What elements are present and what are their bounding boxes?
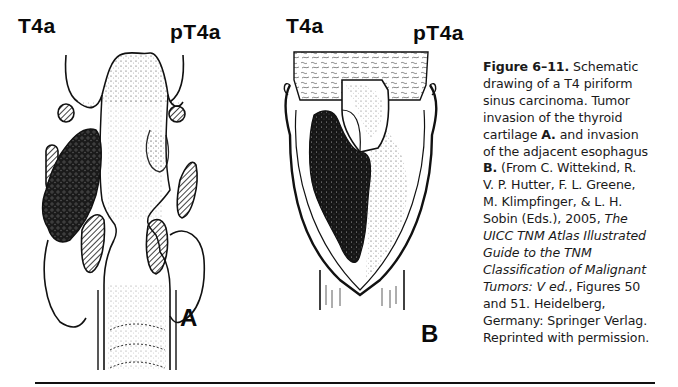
figure-a-label-t4a: T4a [18,14,56,38]
caption-line-italic: UICC TNM Atlas Illustrated [483,228,646,243]
caption-line: Sobin (Eds.), 2005, [483,211,605,226]
horizontal-rule [35,382,655,384]
caption-line: Germany: Springer Verlag. [483,313,678,330]
caption-line: , Figures 50 [568,279,640,294]
caption-line: sinus carcinoma. Tumor [483,93,678,110]
caption-line: Schematic [569,59,638,74]
caption-line: drawing of a T4 piriform [483,76,678,93]
caption-line: Reprinted with permission. [483,330,678,347]
caption-line-italic: Classification of Malignant [483,262,646,277]
caption-line: and 51. Heidelberg, [483,296,678,313]
caption-line-italic: Tumors: V ed. [483,279,568,294]
caption-line: V. P. Hutter, F. L. Greene, [483,177,678,194]
caption-figure-number: Figure 6–11. [483,59,569,74]
caption-line: (From C. Wittekind, R. [497,160,636,175]
caption-line: M. Klimpfinger, & L. H. [483,194,678,211]
caption-line: cartilage [483,127,541,142]
caption-line: and invasion [556,127,639,142]
figure-b-panel-letter: B [421,320,438,348]
caption-bold-b: B. [483,160,497,175]
figure-b-label-t4a: T4a [286,14,324,38]
caption-line: of the adjacent esophagus [483,144,678,161]
figure-caption: Figure 6–11. Schematic drawing of a T4 p… [483,59,678,346]
caption-italic-the: The [605,211,628,226]
larynx-drawing-b [280,40,450,310]
caption-line: invasion of the thyroid [483,110,678,127]
figure-a-panel-letter: A [180,304,197,332]
larynx-drawing-a [20,40,260,370]
caption-line-italic: Guide to the TNM [483,245,592,260]
caption-bold-a: A. [541,127,556,142]
